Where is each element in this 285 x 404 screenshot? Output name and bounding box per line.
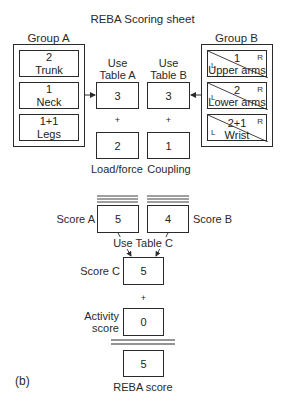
score-a-value: 5 — [98, 213, 138, 225]
score-b-label: Score B — [193, 213, 238, 225]
use-table-c-label: Use Table C — [103, 237, 183, 249]
score-c-label: Score C — [76, 265, 120, 277]
activity-label-line1: Activity — [75, 310, 119, 322]
reba-score-box: 5 — [123, 350, 164, 377]
score-c-box: 5 — [123, 257, 164, 285]
score-a-label: Score A — [50, 213, 95, 225]
activity-score-box: 0 — [123, 308, 164, 336]
activity-value: 0 — [124, 316, 163, 328]
connector-lines — [0, 0, 285, 404]
score-b-value: 4 — [148, 213, 188, 225]
plus-sign: + — [123, 292, 164, 304]
score-a-box: 5 — [97, 205, 139, 233]
score-c-value: 5 — [124, 265, 163, 277]
reba-value: 5 — [124, 358, 163, 370]
panel-label: (b) — [15, 375, 35, 387]
reba-score-label: REBA score — [103, 381, 183, 393]
score-b-box: 4 — [147, 205, 189, 233]
activity-label-line2: score — [75, 322, 119, 334]
